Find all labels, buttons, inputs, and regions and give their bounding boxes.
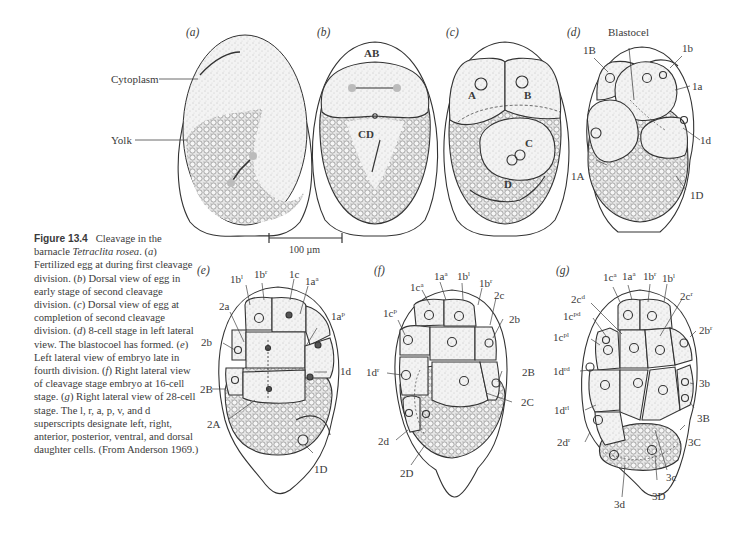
- label-base: 1a: [434, 270, 444, 282]
- label-1D: 1D: [690, 189, 703, 201]
- label-g-1ca: 1ca: [603, 271, 617, 283]
- label-e-2A: 2A: [207, 418, 220, 430]
- label-base: 3b: [699, 377, 710, 389]
- label-base: 2b: [509, 313, 520, 325]
- label-base: 1D: [314, 463, 327, 475]
- label-g-1drd: 1drd: [553, 365, 570, 377]
- label-f-1dr: 1dr: [366, 366, 379, 378]
- label-sup: a: [613, 271, 616, 279]
- label-g-1drl: 1drl: [554, 404, 569, 416]
- panel-label-g: (g): [556, 264, 569, 276]
- label-sup: p: [341, 310, 345, 318]
- label-g-3d: 3d: [614, 498, 625, 510]
- label-base: 1c: [289, 268, 299, 280]
- label-D: D: [504, 178, 512, 190]
- label-base: 2A: [207, 418, 220, 430]
- label-f-1br: 1br: [479, 277, 492, 289]
- label-sup: d: [581, 293, 585, 301]
- label-sup: p: [393, 307, 397, 315]
- label-g-3c: 3c: [666, 471, 676, 483]
- label-f-1cp: 1cp: [383, 307, 397, 319]
- label-g-1cpl: 1cpl: [553, 331, 569, 343]
- label-g-3D: 3D: [652, 490, 665, 502]
- label-g-1cpd: 1cpd: [563, 310, 580, 322]
- label-sup: pl: [563, 331, 568, 339]
- label-base: 1d: [553, 365, 564, 377]
- label-base: 1a: [331, 310, 341, 322]
- panel-b-drawing: [312, 42, 437, 236]
- label-e-1bl: 1bl: [230, 273, 243, 285]
- label-CD: CD: [358, 128, 374, 140]
- label-f-2d: 2d: [378, 435, 389, 447]
- panel-a-drawing: [178, 35, 312, 236]
- caption-italic: Tetraclita rosea: [73, 246, 140, 257]
- label-base: 1c: [383, 307, 393, 319]
- label-base: 2d: [557, 436, 568, 448]
- label-sup: r: [654, 270, 656, 278]
- label-base: 3c: [666, 471, 676, 483]
- label-sup: l: [673, 272, 675, 280]
- label-sup: a: [444, 270, 447, 278]
- label-e-1d: 1d: [340, 365, 351, 377]
- label-A: A: [468, 89, 476, 101]
- label-e-2B: 2B: [200, 383, 213, 395]
- label-sup: r: [710, 324, 712, 332]
- label-base: 1d: [366, 366, 377, 378]
- panel-label-a: (a): [186, 26, 199, 38]
- label-g-1bl: 1bl: [662, 272, 675, 284]
- panel-letter-text: b: [321, 26, 327, 38]
- label-e-1br: 1br: [254, 268, 267, 280]
- panel-letter-text: a: [190, 26, 196, 38]
- panel-label-d: (d): [567, 26, 580, 38]
- panel-f-drawing: [395, 290, 507, 497]
- label-base: 1c: [553, 331, 563, 343]
- label-base: 2c: [494, 289, 504, 301]
- label-e-2b: 2b: [201, 336, 212, 348]
- label-sup: r: [690, 290, 692, 298]
- label-f-1bl: 1bl: [457, 270, 470, 282]
- label-yolk: Yolk: [111, 134, 132, 146]
- label-sup: r: [568, 436, 570, 444]
- label-g-2cd: 2cd: [571, 293, 585, 305]
- panel-letter-text: g: [560, 264, 566, 276]
- label-f-2C: 2C: [521, 396, 534, 408]
- label-base: 2B: [522, 366, 535, 378]
- label-f-2c: 2c: [494, 289, 504, 301]
- label-base: 2c: [680, 290, 690, 302]
- label-sup: a: [315, 275, 318, 283]
- label-1a: 1a: [692, 80, 702, 92]
- scale-bar-label: 100 µm: [289, 244, 320, 256]
- label-g-3B: 3B: [697, 412, 710, 424]
- label-base: 1a: [622, 270, 632, 282]
- panel-label-c: (c): [446, 26, 459, 38]
- label-base: 3B: [697, 412, 710, 424]
- label-base: 2b: [201, 336, 212, 348]
- label-f-2D: 2D: [400, 467, 413, 479]
- label-g-1br: 1br: [643, 270, 656, 282]
- label-1A: 1A: [571, 170, 584, 182]
- label-sup: l: [241, 273, 243, 281]
- label-base: 2d: [378, 435, 389, 447]
- label-base: 3C: [688, 436, 701, 448]
- label-base: 1b: [457, 270, 468, 282]
- panel-letter-text: f: [378, 264, 381, 276]
- label-base: 1b: [479, 277, 490, 289]
- label-base: 1d: [340, 365, 351, 377]
- label-blastocel: Blastocel: [608, 26, 649, 38]
- label-g-1aa: 1aa: [622, 270, 636, 282]
- label-cytoplasm: Cytoplasm: [111, 73, 159, 85]
- caption-text: Cleavage in the barnacle Tetraclita rose…: [34, 233, 198, 455]
- label-base: 1d: [554, 404, 565, 416]
- panel-letter-text: d: [571, 26, 577, 38]
- panel-c-drawing: [444, 42, 569, 236]
- label-f-2B: 2B: [522, 366, 535, 378]
- label-base: 2b: [699, 324, 710, 336]
- label-base: 1c: [410, 281, 420, 293]
- label-base: 1b: [230, 273, 241, 285]
- label-sup: r: [490, 277, 492, 285]
- label-B: B: [524, 89, 531, 101]
- label-e-2a: 2a: [219, 300, 229, 312]
- panel-label-f: (f): [374, 264, 385, 276]
- figure-number: Figure 13.4: [34, 233, 88, 244]
- label-base: 2a: [219, 300, 229, 312]
